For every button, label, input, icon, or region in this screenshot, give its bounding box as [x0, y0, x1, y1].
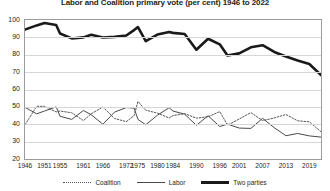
legend-item-labor: Labor: [137, 179, 186, 187]
y-axis-tick-label: 20: [12, 155, 20, 162]
x-axis-tick-label: 1984: [166, 162, 180, 170]
gridline: [25, 90, 321, 91]
y-axis-tick-label: 70: [12, 68, 20, 75]
x-axis-tick-label: 2019: [302, 162, 316, 170]
x-axis-tick-label: 1996: [213, 162, 227, 170]
x-axis-tick-label: 1966: [96, 162, 110, 170]
x-axis-tick-label: 1975: [131, 162, 145, 170]
x-axis-tick-label: 1946: [18, 162, 32, 170]
gridline: [25, 124, 321, 125]
x-axis-tick-label: 2007: [255, 162, 269, 170]
legend-label-two-parties: Two parties: [233, 179, 266, 187]
y-axis-tick-label: 30: [12, 137, 20, 144]
x-axis-tick-label: 1980: [150, 162, 164, 170]
x-axis-tick-label: 1990: [189, 162, 203, 170]
chart-title: Labor and Coalition primary vote (per ce…: [0, 0, 330, 7]
y-axis-tick-label: 90: [12, 33, 20, 40]
gridline: [25, 37, 321, 38]
series-line-two-parties: [25, 23, 321, 75]
x-axis-tick-label: 1961: [76, 162, 90, 170]
thick-line-swatch: [201, 181, 229, 185]
chart-container: Labor and Coalition primary vote (per ce…: [0, 0, 330, 191]
dotted-line-swatch: [63, 181, 91, 185]
thin-line-swatch: [137, 181, 165, 185]
gridline: [25, 72, 321, 73]
gridline: [25, 142, 321, 143]
legend-label-labor: Labor: [169, 179, 186, 187]
legend-item-coalition: Coalition: [63, 179, 120, 187]
plot-area: [24, 19, 322, 160]
y-axis-tick-label: 50: [12, 102, 20, 109]
legend-label-coalition: Coalition: [95, 179, 120, 187]
gridline: [25, 55, 321, 56]
y-axis-tick-label: 60: [12, 85, 20, 92]
x-axis-tick-label: 1951: [37, 162, 51, 170]
x-axis-tick-label: 1955: [53, 162, 67, 170]
x-axis-tick-label: 2001: [232, 162, 246, 170]
x-axis: 1946195119551961196619721975198019841990…: [24, 162, 322, 172]
series-line-labor: [25, 107, 321, 137]
chart-legend: Coalition Labor Two parties: [0, 177, 330, 189]
y-axis-tick-label: 100: [8, 16, 20, 23]
x-axis-tick-label: 2013: [279, 162, 293, 170]
legend-item-two-parties: Two parties: [201, 179, 266, 187]
y-axis-tick-label: 40: [12, 120, 20, 127]
y-axis: 2030405060708090100: [0, 19, 22, 160]
gridline: [25, 107, 321, 108]
y-axis-tick-label: 80: [12, 50, 20, 57]
